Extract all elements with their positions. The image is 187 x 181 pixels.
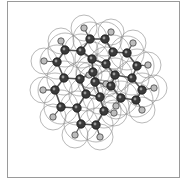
carbon-atom: [77, 120, 85, 128]
carbon-atom: [60, 74, 68, 82]
carbon-atom: [102, 60, 110, 68]
carbon-atom-highlight: [140, 88, 143, 91]
carbon-atom: [109, 48, 117, 56]
carbon-atom: [92, 121, 100, 129]
carbon-atom: [91, 78, 99, 86]
carbon-atom: [61, 46, 69, 54]
hydrogen-atom: [58, 38, 64, 44]
carbon-atom: [100, 107, 108, 115]
carbon-atom: [89, 68, 97, 76]
carbon-atom-highlight: [78, 77, 81, 80]
carbon-atom-highlight: [94, 123, 97, 126]
carbon-atom: [86, 35, 94, 43]
carbon-atom: [101, 35, 109, 43]
hydrogen-atom: [111, 110, 117, 116]
carbon-atom-highlight: [55, 60, 58, 63]
carbon-atom-highlight: [93, 80, 96, 83]
carbon-atom-highlight: [130, 76, 133, 79]
hydrogen-atom: [40, 87, 46, 93]
carbon-atom: [132, 96, 140, 104]
carbon-atom-highlight: [98, 95, 101, 98]
carbon-atom: [117, 94, 125, 102]
carbon-atom-highlight: [111, 50, 114, 53]
carbon-atom: [107, 82, 115, 90]
carbon-atom-highlight: [135, 64, 138, 67]
carbon-atom-highlight: [84, 92, 87, 95]
carbon-atom-highlight: [109, 84, 112, 87]
carbon-atom-highlight: [103, 37, 106, 40]
carbon-atom-highlight: [63, 48, 66, 51]
hydrogen-atom: [130, 40, 136, 46]
carbon-atom-highlight: [91, 70, 94, 73]
carbon-atom-highlight: [134, 98, 137, 101]
carbon-atom: [82, 90, 90, 98]
carbon-atom: [123, 49, 131, 57]
carbon-atom: [53, 58, 61, 66]
carbon-atom-highlight: [102, 109, 105, 112]
carbon-atom-highlight: [59, 105, 62, 108]
carbon-atom-highlight: [90, 57, 93, 60]
carbon-atom: [88, 55, 96, 63]
hydrogen-atom: [113, 103, 119, 109]
hydrogen-atom: [41, 58, 47, 64]
carbon-atom-highlight: [79, 49, 82, 52]
carbon-atom: [73, 104, 81, 112]
carbon-atom-highlight: [113, 73, 116, 76]
hydrogen-atom: [139, 107, 145, 113]
hydrogen-atom: [108, 29, 114, 35]
carbon-atom: [111, 71, 119, 79]
hydrogen-atom: [81, 25, 87, 31]
carbon-atom-highlight: [104, 62, 107, 65]
molecule-diagram: [0, 0, 187, 181]
carbon-atom-highlight: [119, 96, 122, 99]
carbon-atom-highlight: [125, 51, 128, 54]
carbon-atom: [76, 75, 84, 83]
hydrogen-atom: [97, 134, 103, 140]
hydrogen-atom: [72, 132, 78, 138]
carbon-atom-highlight: [53, 88, 56, 91]
carbon-atom-highlight: [79, 122, 82, 125]
hydrogen-atom: [151, 85, 157, 91]
carbon-atom: [57, 103, 65, 111]
carbon-atom: [96, 93, 104, 101]
carbon-atom: [77, 47, 85, 55]
carbon-atom: [51, 86, 59, 94]
hydrogen-atom: [145, 62, 151, 68]
carbon-atom: [128, 74, 136, 82]
carbon-atom-highlight: [75, 106, 78, 109]
carbon-atom: [138, 86, 146, 94]
carbon-atom-highlight: [62, 76, 65, 79]
carbon-atom: [133, 62, 141, 70]
hydrogen-atom: [50, 114, 56, 120]
carbon-atom-highlight: [88, 37, 91, 40]
